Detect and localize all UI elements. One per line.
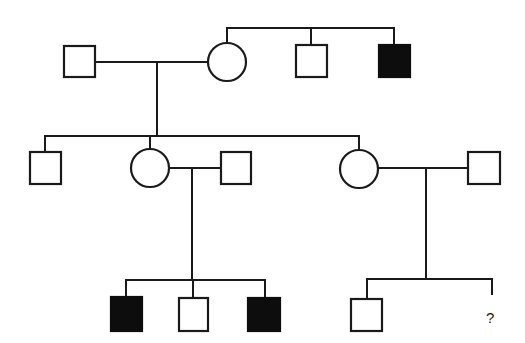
- male-unaffected-II5: [468, 152, 500, 184]
- female-unaffected-II4: [340, 150, 378, 188]
- generation-1-lines: [95, 28, 394, 136]
- male-unaffected-I3: [296, 45, 327, 77]
- male-unaffected-II3: [221, 152, 251, 184]
- male-unaffected-III2: [179, 298, 208, 331]
- generation-3: ?: [111, 297, 494, 331]
- male-unaffected-III4: [351, 299, 382, 331]
- male-affected-III1: [111, 297, 142, 331]
- pedigree-diagram: ?: [0, 0, 525, 343]
- unknown-individual-label: ?: [486, 309, 494, 326]
- male-affected-III3: [248, 298, 280, 331]
- generation-2-lines: [45, 136, 468, 280]
- male-affected-I4: [379, 45, 410, 77]
- female-unaffected-I2: [208, 43, 246, 81]
- male-unaffected-I1: [64, 46, 95, 77]
- male-unaffected-II1: [30, 152, 61, 184]
- female-unaffected-II2: [131, 149, 169, 187]
- generation-3-lines: [126, 279, 492, 299]
